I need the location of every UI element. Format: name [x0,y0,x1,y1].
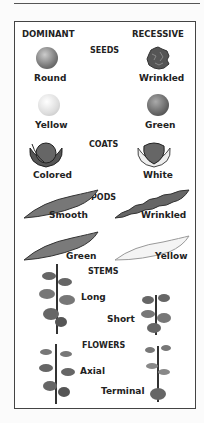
green-seed-icon [147,94,169,116]
long-stem-plant-icon [35,264,80,334]
trait-smooth-pod: Smooth [49,210,88,220]
trait-round: Round [34,73,66,83]
trait-green-seed: Green [145,120,175,130]
recessive-header: RECESSIVE [132,29,184,39]
trait-white-coat: White [143,170,173,180]
round-seed-icon [36,47,58,69]
top-rule [14,3,200,4]
terminal-flower-plant-icon [140,342,176,404]
white-coat-icon [136,140,172,168]
axial-flower-plant-icon [36,344,78,404]
category-stems: STEMS [88,267,118,276]
trait-green-pod: Green [66,251,96,261]
trait-wrinkled-pod: Wrinkled [141,210,186,220]
trait-terminal-flower: Terminal [101,386,145,396]
yellow-seed-icon [38,94,60,116]
trait-yellow-pod: Yellow [155,251,187,261]
wrinkled-seed-icon [146,46,170,70]
dominant-header: DOMINANT [22,29,75,39]
category-seeds: SEEDS [90,46,119,55]
short-stem-plant-icon [136,290,176,335]
colored-coat-icon [28,140,64,168]
category-flowers: FLOWERS [82,341,125,350]
trait-axial-flower: Axial [80,366,105,376]
trait-wrinkled-seed: Wrinkled [139,73,184,83]
trait-long-stem: Long [81,292,106,302]
trait-yellow-seed: Yellow [35,120,67,130]
trait-short-stem: Short [107,314,135,324]
category-coats: COATS [89,140,118,149]
trait-colored-coat: Colored [33,170,72,180]
